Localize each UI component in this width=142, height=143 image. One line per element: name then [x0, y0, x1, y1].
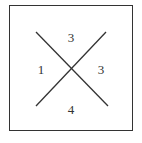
region-left-label: 1 — [38, 62, 45, 78]
cross-lines — [0, 0, 142, 143]
region-top-label: 3 — [68, 30, 75, 46]
region-bottom-label: 4 — [68, 102, 75, 118]
region-right-label: 3 — [98, 62, 105, 78]
